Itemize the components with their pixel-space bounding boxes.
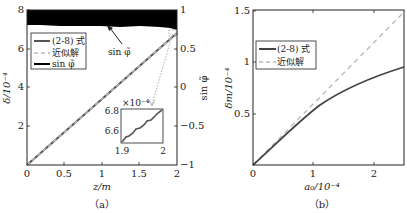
figure: sin φ̃ 2 4 6 8 −1 −0.5 0 0.5 1 0 0.5 1 1… xyxy=(0,0,407,213)
ytick-a-8: 8 xyxy=(18,4,24,15)
inset-a: ×10⁻⁴ 6.8 6.6 1.9 2 xyxy=(105,98,166,156)
ylabel-a: δ/10⁻⁴ xyxy=(1,72,12,103)
inset-xtick-2: 2 xyxy=(160,146,166,156)
xtick-a-1: 1 xyxy=(99,168,105,179)
legend-b-item-0: (2-8) 式 xyxy=(277,43,310,54)
xtick-a-05: 0.5 xyxy=(56,168,72,179)
legend-a-item-1: 近似解 xyxy=(52,47,79,58)
plot-frame-b xyxy=(253,10,404,165)
y2tick-a-m05: −0.5 xyxy=(180,120,204,131)
ytick-b-1: 1 xyxy=(244,56,250,67)
annotation-arrow xyxy=(110,28,122,44)
y2tick-a-0: 0 xyxy=(180,81,186,92)
legend-a-item-2: sin φ̃ xyxy=(52,59,74,69)
panel-label-a: （a） xyxy=(89,199,115,210)
inset-ytick-66: 6.6 xyxy=(105,126,120,136)
inset-ytick-68: 6.8 xyxy=(105,106,120,116)
xlabel-a: z/m xyxy=(92,181,111,192)
annotation-text: sin φ̃ xyxy=(108,47,130,57)
y2tick-a-m1: −1 xyxy=(180,159,195,170)
ytick-a-4: 4 xyxy=(18,81,24,92)
xtick-a-0: 0 xyxy=(24,168,30,179)
y2tick-a-05: 0.5 xyxy=(180,43,196,54)
ytick-a-6: 6 xyxy=(18,43,24,54)
ytick-a-2: 2 xyxy=(18,120,24,131)
xtick-a-15: 1.5 xyxy=(131,168,147,179)
legend-b-item-1: 近似解 xyxy=(277,56,304,67)
ylabel-b: δm/10⁻⁴ xyxy=(223,68,234,109)
legend-a: (2-8) 式 近似解 sin φ̃ xyxy=(31,33,86,69)
series-b-2-8 xyxy=(253,67,404,165)
xtick-a-2: 2 xyxy=(174,168,180,179)
series-b-approx xyxy=(253,12,404,165)
y2label-a: sin φ̃ xyxy=(198,76,209,101)
xtick-b-1: 1 xyxy=(310,168,316,179)
ytick-b-05: 0.5 xyxy=(234,108,250,119)
xtick-b-2: 2 xyxy=(371,168,377,179)
panel-label-b: （b） xyxy=(309,199,335,210)
xlabel-b: a₀/10⁻⁴ xyxy=(304,181,339,192)
sin-phi-band xyxy=(27,10,177,30)
xtick-b-0: 0 xyxy=(250,168,256,179)
inset-xtick-19: 1.9 xyxy=(115,146,130,156)
legend-b: (2-8) 式 近似解 xyxy=(256,41,316,69)
legend-a-item-0: (2-8) 式 xyxy=(52,35,85,46)
inset-multiplier: ×10⁻⁴ xyxy=(122,98,150,108)
y2tick-a-1: 1 xyxy=(180,4,186,15)
panel-a: sin φ̃ 2 4 6 8 −1 −0.5 0 0.5 1 0 0.5 1 1… xyxy=(1,4,209,210)
ytick-b-15: 1.5 xyxy=(234,5,250,16)
panel-b: 0.5 1 1.5 0 1 2 a₀/10⁻⁴ δm/10⁻⁴ （b） (2-8… xyxy=(223,5,404,210)
